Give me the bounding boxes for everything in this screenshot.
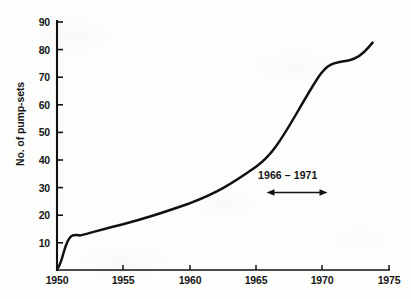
x-tick-label-1955: 1955	[103, 274, 143, 286]
x-tick-label-1970: 1970	[302, 274, 342, 286]
range-annotation-arrow	[267, 189, 328, 196]
x-tick-label-1965: 1965	[236, 274, 276, 286]
y-tick-label-20: 20	[22, 209, 50, 221]
x-tick-label-1975: 1975	[369, 274, 409, 286]
y-tick-label-10: 10	[22, 237, 50, 249]
y-tick-label-70: 70	[22, 71, 50, 83]
line-chart-figure: 90 80 70 60 50 40 30 20 10 1950 1955 196…	[0, 0, 411, 299]
y-tick-label-40: 40	[22, 154, 50, 166]
plot-area	[0, 0, 411, 299]
x-axis-ticks	[57, 264, 389, 270]
y-tick-label-50: 50	[22, 126, 50, 138]
data-series-line	[58, 43, 373, 269]
x-tick-label-1960: 1960	[170, 274, 210, 286]
x-tick-label-1950: 1950	[37, 274, 77, 286]
y-tick-label-30: 30	[22, 182, 50, 194]
y-tick-label-60: 60	[22, 99, 50, 111]
range-annotation-label: 1966 – 1971	[258, 169, 318, 181]
y-axis-title: No. of pump-sets	[14, 69, 26, 179]
y-tick-label-90: 90	[22, 16, 50, 28]
y-tick-label-80: 80	[22, 44, 50, 56]
